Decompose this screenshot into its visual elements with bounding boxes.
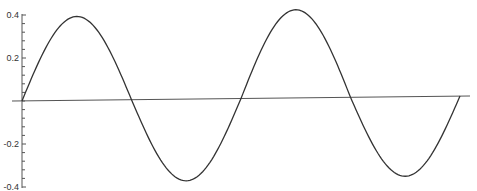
y-tick-label: 0.4 [6, 10, 19, 20]
sine-wave-series [22, 10, 460, 181]
y-tick-label: -0.2 [3, 139, 19, 149]
y-tick-label: 0.2 [6, 53, 19, 63]
line-chart: 0.40.2-0.2-0.4 [0, 0, 477, 191]
y-tick-label: -0.4 [3, 182, 19, 191]
